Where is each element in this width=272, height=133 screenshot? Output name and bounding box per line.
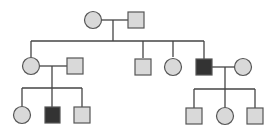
male-unaffected-II-1-spouse bbox=[67, 58, 83, 74]
female-unaffected-III-5 bbox=[217, 108, 234, 125]
male-unaffected-I-2 bbox=[128, 12, 144, 28]
male-unaffected-II-2 bbox=[135, 59, 151, 75]
female-unaffected-III-1 bbox=[14, 107, 31, 124]
female-unaffected-II-3 bbox=[165, 59, 182, 76]
female-unaffected-I-1 bbox=[85, 12, 102, 29]
female-unaffected-II-1 bbox=[23, 58, 40, 75]
male-unaffected-III-4 bbox=[186, 108, 202, 124]
male-affected-II-4 bbox=[196, 59, 212, 75]
pedigree-chart bbox=[0, 0, 272, 133]
male-unaffected-III-6 bbox=[247, 108, 263, 124]
male-unaffected-III-3 bbox=[74, 107, 90, 123]
female-unaffected-II-4-spouse bbox=[235, 59, 252, 76]
male-affected-III-2 bbox=[45, 107, 60, 123]
